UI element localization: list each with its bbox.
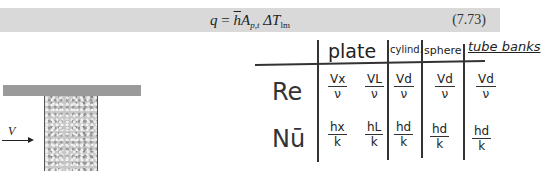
re-plate-local: Vxν (328, 72, 347, 101)
equation-number: (7.73) (452, 8, 486, 32)
h-bar: h (234, 12, 242, 28)
row-label-reynolds: Re (272, 78, 302, 106)
velocity-label: V (8, 124, 15, 139)
nu-plate-average: hLk (365, 120, 383, 149)
column-header-cylinder: cylind. (390, 44, 423, 55)
nu-plate-local: hxk (328, 120, 347, 149)
delta-t: ΔT (263, 12, 280, 28)
column-divider (387, 40, 389, 160)
area-symbol: A (241, 12, 250, 28)
re-tube-banks: Vdν (476, 72, 496, 101)
equation-bar: q = hAp,t ΔTlm (7.73) (0, 8, 500, 32)
nu-sphere: hdk (430, 122, 449, 151)
re-sphere: Vdν (435, 72, 455, 101)
column-divider (317, 40, 319, 162)
nu-tube-banks: hdk (472, 124, 491, 153)
delta-subscript: lm (280, 20, 290, 30)
porous-block (44, 96, 98, 171)
equals-sign: = (221, 12, 229, 28)
column-divider (463, 44, 465, 160)
re-plate-average: VLν (365, 72, 384, 101)
column-header-sphere: sphere (424, 44, 462, 57)
re-cylinder: Vdν (394, 72, 414, 101)
nu-cylinder: hdk (394, 120, 413, 149)
area-subscript: p,t (250, 20, 259, 30)
equation: q = hAp,t ΔTlm (0, 8, 500, 32)
column-header-plate: plate (328, 40, 376, 62)
equation-lhs: q (210, 12, 218, 28)
flow-arrow-icon (2, 140, 32, 141)
plate-surface (3, 85, 141, 96)
row-label-nusselt: Nū (272, 125, 305, 153)
column-divider (421, 40, 423, 158)
column-header-tube-banks: tube banks (468, 39, 540, 54)
